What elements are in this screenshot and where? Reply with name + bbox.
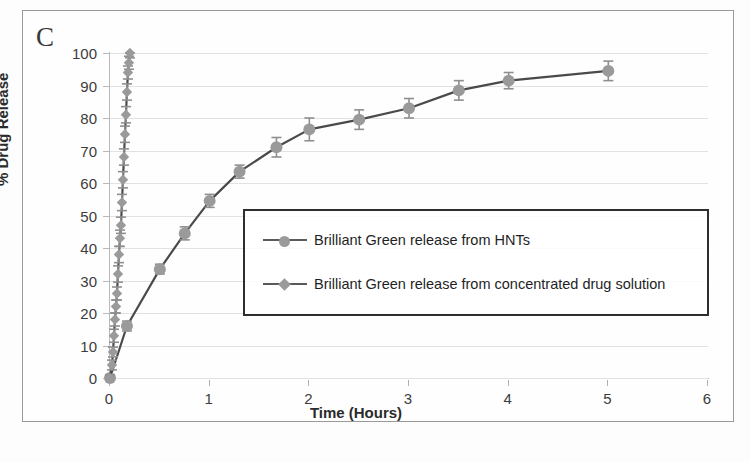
y-tick-label: 70: [63, 142, 97, 159]
x-axis-tick-labels: 0123456: [109, 380, 709, 404]
x-tick-mark: [607, 380, 608, 386]
panel-label: C: [36, 22, 54, 53]
y-tick-label: 20: [63, 305, 97, 322]
legend-label: Brilliant Green release from HNTs: [314, 232, 530, 248]
x-axis-title: Time (Hours): [0, 404, 712, 421]
y-tick-label: 10: [63, 337, 97, 354]
gridline: [110, 378, 708, 379]
figure-panel-c: C 0102030405060708090100 0123456 % Drug …: [0, 0, 750, 462]
x-tick-mark: [508, 380, 509, 386]
legend-marker-diamond-icon: [263, 278, 307, 290]
legend-item-hnts: Brilliant Green release from HNTs: [263, 230, 530, 250]
x-tick-mark: [308, 380, 309, 386]
y-tick-label: 30: [63, 272, 97, 289]
y-tick-label: 80: [63, 110, 97, 127]
series-concentrated: [105, 48, 135, 383]
x-tick-mark: [707, 380, 708, 386]
legend-label: Brilliant Green release from concentrate…: [314, 276, 665, 292]
y-tick-label: 0: [63, 370, 97, 387]
y-axis-tick-labels: 0102030405060708090100: [63, 53, 97, 378]
y-tick-label: 100: [63, 45, 97, 62]
x-tick-mark: [209, 380, 210, 386]
y-tick-label: 40: [63, 240, 97, 257]
legend-marker-circle-icon: [263, 234, 307, 246]
legend: Brilliant Green release from HNTs Brilli…: [243, 209, 709, 316]
legend-item-concentrated-solution: Brilliant Green release from concentrate…: [263, 274, 665, 294]
y-tick-label: 60: [63, 175, 97, 192]
x-tick-mark: [408, 380, 409, 386]
y-tick-label: 90: [63, 77, 97, 94]
y-axis-title: % Drug Release: [0, 73, 11, 186]
y-tick-label: 50: [63, 207, 97, 224]
